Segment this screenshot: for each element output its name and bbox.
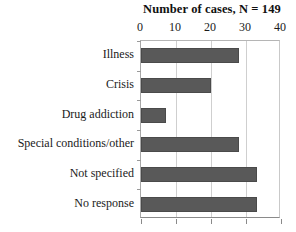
category-label-drug-addiction: Drug addiction [8,107,140,122]
gridline-30 [246,41,247,217]
x-tick-label-40: 40 [274,20,286,35]
x-tick-mark-20 [211,219,212,224]
bar-special-conditions-other [141,137,239,152]
x-tick-mark-0 [141,219,142,224]
bar-row [141,78,279,93]
chart-title: Number of cases, N = 149 [128,2,296,17]
category-label-no-response: No response [8,196,140,211]
bar-row [141,108,279,123]
bar-drug-addiction [141,108,166,123]
bar-row [141,137,279,152]
bar-row [141,48,279,63]
category-label-illness: Illness [8,47,140,62]
bar-row [141,197,279,212]
x-tick-label-10: 10 [169,20,181,35]
x-tick-label-0: 0 [137,20,143,35]
x-tick-mark-30 [246,219,247,224]
plot-area [140,40,280,218]
category-label-not-specified: Not specified [8,166,140,181]
category-label-special-conditions-other: Special conditions/other [8,136,140,151]
gridline-10 [176,41,177,217]
x-axis-tick-labels: 010203040 [140,20,280,36]
x-tick-mark-40 [281,219,282,224]
bar-chart: Number of cases, N = 149 010203040 Illne… [0,0,296,232]
gridline-20 [211,41,212,217]
bar-no-response [141,197,257,212]
category-label-crisis: Crisis [8,77,140,92]
bar-illness [141,48,239,63]
x-tick-label-20: 20 [204,20,216,35]
bar-crisis [141,78,211,93]
y-axis-category-labels: IllnessCrisisDrug addictionSpecial condi… [0,40,140,218]
bar-not-specified [141,167,257,182]
x-tick-label-30: 30 [239,20,251,35]
x-tick-mark-10 [176,219,177,224]
bar-row [141,167,279,182]
